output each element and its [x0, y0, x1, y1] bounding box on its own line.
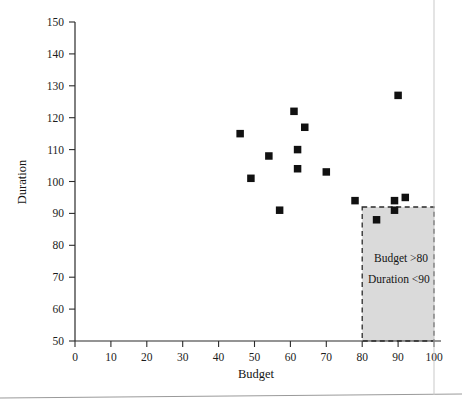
data-point [351, 197, 359, 205]
x-tick-label: 90 [392, 351, 404, 363]
x-tick-label: 60 [285, 351, 297, 363]
x-tick-label: 30 [177, 351, 189, 363]
data-point [276, 206, 284, 214]
y-tick-label: 90 [53, 207, 65, 219]
x-tick-label: 50 [249, 351, 261, 363]
data-point [391, 206, 399, 214]
region-label-line1: Budget >80 [374, 252, 428, 265]
y-tick-label: 120 [47, 112, 65, 124]
y-tick-label: 150 [47, 16, 65, 28]
y-axis-title: Duration [15, 159, 29, 204]
scatter-plot-figure: 5060708090100110120130140150 01020304050… [0, 0, 462, 410]
y-tick-label: 140 [47, 48, 65, 60]
chart-canvas: 5060708090100110120130140150 01020304050… [0, 0, 462, 410]
data-point [394, 92, 402, 100]
y-tick-label: 130 [47, 80, 65, 92]
y-tick-label: 60 [53, 303, 65, 315]
region-label-line2: Duration <90 [368, 273, 430, 285]
y-tick-label: 80 [53, 239, 65, 251]
data-point [373, 216, 381, 224]
x-tick-label: 40 [213, 351, 225, 363]
data-point [402, 194, 410, 202]
data-point [391, 197, 399, 205]
y-tick-label: 70 [53, 271, 65, 283]
data-point [247, 175, 255, 183]
y-tick-label: 100 [47, 176, 65, 188]
data-point [294, 165, 302, 173]
y-tick-label: 50 [53, 335, 65, 347]
data-point [323, 168, 331, 176]
x-tick-label: 10 [105, 351, 117, 363]
x-tick-label: 20 [141, 351, 153, 363]
data-point [294, 146, 302, 154]
x-tick-label: 0 [72, 351, 78, 363]
x-tick-label: 70 [321, 351, 333, 363]
data-point [290, 108, 298, 116]
y-tick-label: 110 [47, 144, 64, 156]
data-point [301, 124, 309, 131]
data-point [236, 130, 244, 138]
chart-background [0, 0, 462, 410]
data-point [265, 152, 273, 160]
x-axis-title: Budget [238, 367, 275, 381]
x-tick-label: 80 [356, 351, 368, 363]
